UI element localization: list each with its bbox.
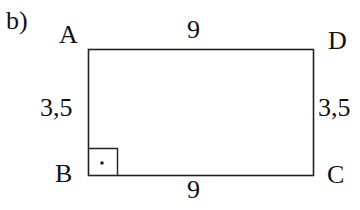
rectangle-abcd (89, 50, 314, 176)
side-top-length: 9 (187, 17, 200, 43)
side-left-length: 3,5 (40, 95, 73, 121)
vertex-d-label: D (328, 28, 347, 54)
vertex-c-label: C (327, 162, 344, 188)
side-bottom-length: 9 (187, 177, 200, 203)
side-right-length: 3,5 (318, 95, 351, 121)
part-label: b) (6, 8, 28, 34)
vertex-a-label: A (59, 22, 78, 48)
right-angle-dot (100, 161, 104, 165)
vertex-b-label: B (55, 161, 72, 187)
